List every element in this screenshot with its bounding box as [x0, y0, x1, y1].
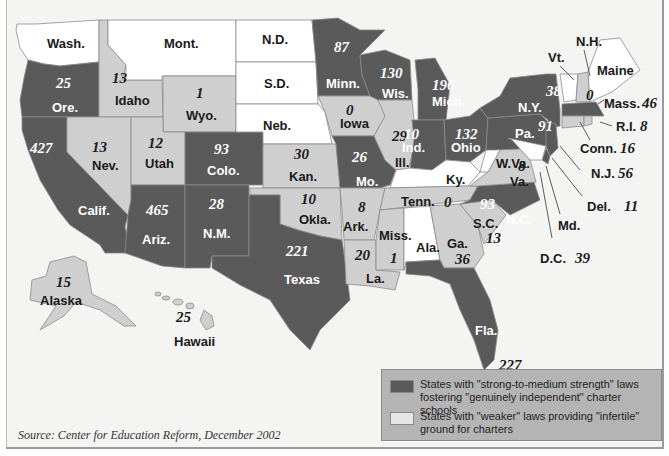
label-ala: Ala. [416, 240, 440, 255]
value-ga: 36 [454, 251, 471, 267]
value-del: 11 [624, 198, 638, 214]
label-va: Va. [510, 174, 529, 189]
label-del: Del. [587, 199, 611, 214]
label-kan: Kan. [289, 169, 317, 184]
label-nev: Nev. [92, 158, 119, 173]
value-mo: 26 [351, 149, 368, 165]
value-nev: 13 [92, 139, 108, 155]
value-alaska: 15 [56, 274, 72, 290]
label-texas: Texas [284, 272, 320, 287]
label-wash: Wash. [47, 36, 85, 51]
label-colo: Colo. [207, 163, 240, 178]
label-iowa: Iowa [340, 116, 370, 131]
value-wyo: 1 [196, 85, 204, 101]
label-md: Md. [558, 218, 580, 233]
value-iowa: 0 [346, 102, 354, 118]
label-wyo: Wyo. [186, 108, 217, 123]
label-ga: Ga. [447, 236, 468, 251]
state-conn[interactable] [562, 116, 584, 128]
value-ariz: 465 [145, 202, 169, 218]
value-ark: 8 [358, 199, 366, 215]
value-sc: 13 [486, 230, 502, 246]
label-ny: N.Y. [518, 100, 542, 115]
value-kan: 30 [293, 146, 310, 162]
label-conn: Conn. [580, 141, 617, 156]
label-ore: Ore. [52, 100, 78, 115]
state-fla[interactable] [406, 260, 498, 370]
label-minn: Minn. [326, 76, 360, 91]
value-nh: 0 [586, 87, 594, 103]
label-ohio: Ohio [451, 140, 481, 155]
label-la: La. [366, 271, 385, 286]
value-minn: 87 [334, 39, 350, 55]
label-pa: Pa. [515, 126, 535, 141]
value-utah: 12 [148, 135, 164, 151]
label-ill: Ill. [395, 155, 409, 170]
value-idaho: 13 [112, 70, 128, 86]
value-conn: 16 [620, 140, 636, 156]
legend: States with "strong-to-medium strength" … [381, 369, 662, 441]
label-miss: Miss. [379, 228, 412, 243]
legend-item-weak: States with "weaker" laws providing "inf… [390, 410, 650, 436]
value-okla: 10 [301, 191, 317, 207]
label-ariz: Ariz. [142, 232, 170, 247]
label-ri: R.I. [616, 119, 636, 134]
label-okla: Okla. [299, 212, 331, 227]
value-pa: 91 [538, 118, 553, 134]
label-fla: Fla. [475, 323, 497, 338]
label-mont: Mont. [164, 36, 199, 51]
label-alaska: Alaska [40, 293, 83, 308]
value-mich: 196 [432, 77, 455, 93]
state-mass[interactable] [562, 102, 604, 116]
label-nj: N.J. [591, 166, 615, 181]
label-nc: N.C. [506, 212, 532, 227]
value-ri: 8 [640, 118, 648, 134]
value-hawaii: 25 [175, 309, 192, 325]
value-nm: 28 [208, 196, 225, 212]
value-colo: 93 [214, 141, 230, 157]
label-calif: Calif. [78, 203, 110, 218]
state-ariz[interactable] [125, 185, 185, 268]
value-texas: 221 [285, 243, 309, 259]
value-la: 20 [354, 247, 371, 263]
value-ore: 25 [55, 75, 72, 91]
label-nd: N.D. [262, 32, 288, 47]
label-dc: D.C. [540, 251, 566, 266]
value-va: 8 [518, 158, 526, 174]
label-mass: Mass. [604, 96, 640, 111]
label-sd: S.D. [264, 76, 289, 91]
label-mo: Mo. [356, 174, 378, 189]
label-ky: Ky. [446, 172, 465, 187]
value-ind: 10 [404, 126, 420, 142]
label-sc: S.C. [473, 216, 498, 231]
value-ny: 38 [545, 83, 562, 99]
source-caption: Source: Center for Education Reform, Dec… [18, 428, 281, 443]
value-ohio: 132 [455, 126, 478, 142]
value-calif: 427 [29, 140, 53, 156]
state-vt[interactable] [560, 74, 578, 102]
legend-swatch-weak [390, 412, 414, 425]
label-wis: Wis. [382, 86, 409, 101]
value-nc: 93 [480, 196, 496, 212]
label-idaho: Idaho [115, 93, 150, 108]
label-neb: Neb. [263, 118, 291, 133]
value-mass: 46 [641, 95, 658, 111]
label-hawaii: Hawaii [174, 334, 215, 349]
legend-label-weak: States with "weaker" laws providing "inf… [420, 410, 650, 436]
label-ark: Ark. [343, 219, 368, 234]
value-dc: 39 [574, 250, 591, 266]
label-maine: Maine [597, 63, 634, 78]
label-utah: Utah [145, 156, 174, 171]
value-wis: 130 [380, 65, 403, 81]
state-ri[interactable] [584, 116, 592, 126]
label-mich: Mich. [432, 94, 465, 109]
legend-swatch-strong [390, 380, 414, 393]
label-vt: Vt. [548, 50, 565, 65]
value-nj: 56 [618, 165, 634, 181]
label-tenn: Tenn. [401, 194, 435, 209]
value-miss: 1 [390, 250, 398, 266]
value-tenn: 0 [444, 194, 452, 210]
label-nh: N.H. [576, 34, 602, 49]
label-nm: N.M. [203, 226, 230, 241]
